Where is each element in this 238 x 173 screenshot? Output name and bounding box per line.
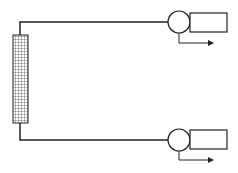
top-connection-line [20,22,168,35]
top-outflow-arrow-icon [179,33,213,43]
bottom-pump-circle [168,129,190,151]
packed-column [13,35,28,123]
bottom-outflow-arrow-icon [179,151,213,160]
bottom-detector-box [190,130,227,149]
top-detector-box [190,13,227,32]
top-pump-circle [168,11,190,33]
diagram-canvas [0,0,238,173]
bottom-outlet [168,129,227,160]
bottom-connection-line [20,123,168,140]
top-outlet [168,11,227,43]
